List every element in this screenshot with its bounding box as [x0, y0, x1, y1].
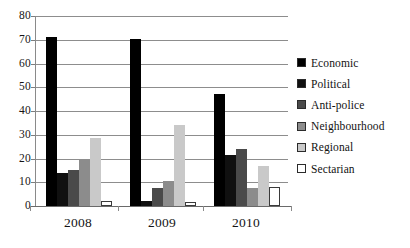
x-tick-label-2008: 2008 — [36, 216, 120, 230]
x-axis-separator-2 — [203, 206, 204, 211]
legend-item-regional[interactable]: Regional — [297, 137, 409, 158]
x-axis-separator-0 — [30, 206, 31, 211]
bar-political-2009 — [141, 201, 152, 206]
x-tick-label-2010: 2010 — [204, 216, 288, 230]
y-tick-label-70: 70 — [5, 34, 31, 46]
bar-political-2008 — [57, 173, 68, 206]
bar-regional-2010 — [258, 166, 269, 206]
bar-neighbourhood-2010 — [247, 188, 258, 206]
y-tick-label-80: 80 — [5, 10, 31, 22]
legend-item-sectarian[interactable]: Sectarian — [297, 158, 409, 179]
bar-neighbourhood-2009 — [163, 181, 174, 206]
legend-item-economic[interactable]: Economic — [297, 52, 409, 73]
legend-item-label: Anti-police — [311, 99, 364, 111]
bar-political-2010 — [225, 155, 236, 206]
bar-regional-2008 — [90, 138, 101, 206]
bar-group-2009 — [130, 16, 196, 206]
chart-legend: EconomicPoliticalAnti-policeNeighbourhoo… — [297, 52, 409, 179]
y-axis-ticks: 80706050403020100 — [0, 0, 31, 248]
bar-economic-2008 — [46, 37, 57, 206]
legend-swatch-icon — [297, 143, 306, 152]
bar-group-2010 — [214, 16, 280, 206]
gridline-0 — [36, 206, 288, 207]
legend-item-label: Political — [311, 78, 350, 90]
plot-area — [36, 16, 288, 206]
bar-neighbourhood-2008 — [79, 160, 90, 206]
legend-item-neighbourhood[interactable]: Neighbourhood — [297, 116, 409, 137]
bar-economic-2010 — [214, 94, 225, 206]
bar-group-bars — [130, 16, 196, 206]
bar-sectarian-2009 — [185, 202, 196, 206]
legend-item-label: Regional — [311, 141, 353, 153]
legend-item-label: Neighbourhood — [311, 120, 384, 132]
y-tick-label-20: 20 — [5, 153, 31, 165]
y-tick-label-0: 0 — [5, 200, 31, 212]
legend-item-political[interactable]: Political — [297, 73, 409, 94]
legend-item-anti-police[interactable]: Anti-police — [297, 94, 409, 115]
bar-regional-2009 — [174, 125, 185, 206]
legend-item-label: Economic — [311, 57, 358, 69]
bar-sectarian-2008 — [101, 201, 112, 206]
bar-chart: 80706050403020100 EconomicPoliticalAnti-… — [0, 0, 410, 248]
legend-swatch-icon — [297, 164, 306, 173]
y-tick-label-60: 60 — [5, 58, 31, 70]
bar-group-2008 — [46, 16, 112, 206]
y-tick-label-50: 50 — [5, 81, 31, 93]
x-axis-separator-3 — [291, 206, 292, 211]
y-tick-label-10: 10 — [5, 176, 31, 188]
x-tick-label-2009: 2009 — [120, 216, 204, 230]
legend-swatch-icon — [297, 58, 306, 67]
legend-swatch-icon — [297, 100, 306, 109]
x-axis-separator-1 — [118, 206, 119, 211]
bar-anti-police-2008 — [68, 170, 79, 206]
bar-sectarian-2010 — [269, 187, 280, 206]
legend-item-label: Sectarian — [311, 163, 355, 175]
legend-swatch-icon — [297, 79, 306, 88]
y-tick-label-40: 40 — [5, 105, 31, 117]
bar-group-bars — [214, 16, 280, 206]
bar-economic-2009 — [130, 39, 141, 206]
bar-anti-police-2009 — [152, 188, 163, 206]
legend-swatch-icon — [297, 122, 306, 131]
y-tick-label-30: 30 — [5, 129, 31, 141]
bar-group-bars — [46, 16, 112, 206]
bar-anti-police-2010 — [236, 149, 247, 206]
